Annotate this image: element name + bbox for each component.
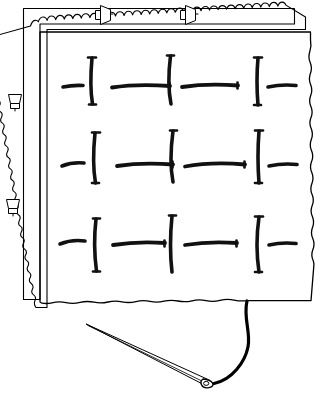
backing-fabric-layer <box>24 9 295 300</box>
stitch-vertical <box>258 131 259 183</box>
basting-stitch-grid <box>60 56 297 273</box>
stitch-vertical <box>257 58 258 105</box>
backing-fabric-outline <box>24 9 295 300</box>
stitch-vertical <box>91 58 93 104</box>
stitch-horizontal <box>182 85 238 87</box>
pin-shaft <box>11 104 20 109</box>
pins-group <box>7 6 199 217</box>
thread-group <box>214 301 249 384</box>
stitch-horizontal <box>185 242 237 245</box>
needle-group <box>86 324 213 388</box>
stitch-horizontal <box>269 164 297 166</box>
needle-eye-hole <box>204 381 209 385</box>
quilt-top-layer <box>40 32 314 304</box>
stitch-horizontal <box>113 242 165 245</box>
thread <box>214 301 249 384</box>
pin-left-upper[interactable] <box>9 95 22 112</box>
stitch-horizontal <box>63 85 83 87</box>
stitch-vertical <box>257 217 259 272</box>
quilt-basting-illustration: Basting a quilt sandwich with pins, need… <box>0 0 325 411</box>
pin-left-lower[interactable] <box>7 200 20 217</box>
stitch-vertical <box>95 219 97 271</box>
stitch-vertical <box>94 133 96 183</box>
stitch-horizontal <box>112 85 170 87</box>
needle-highlight <box>88 326 206 384</box>
basting-row-1 <box>63 56 296 106</box>
stitch-vertical <box>169 56 171 104</box>
stitch-horizontal <box>60 240 85 244</box>
stitch-vertical <box>171 131 173 182</box>
quilt-top-outline <box>40 32 314 304</box>
pin-shaft <box>96 11 101 20</box>
stitch-vertical <box>171 216 173 272</box>
stitch-horizontal <box>185 163 245 166</box>
pin-shaft <box>9 209 18 214</box>
pin-shaft <box>181 11 186 20</box>
stitch-horizontal <box>268 85 296 87</box>
stitch-horizontal <box>62 163 84 166</box>
basting-row-3 <box>60 216 296 273</box>
stitch-horizontal <box>117 164 173 166</box>
pin-head-icon <box>7 200 20 209</box>
basting-row-2 <box>62 131 297 184</box>
stitch-horizontal <box>269 243 296 245</box>
illustration-root: Basting a quilt sandwich with pins, need… <box>0 0 325 411</box>
pin-head-icon <box>9 95 22 104</box>
